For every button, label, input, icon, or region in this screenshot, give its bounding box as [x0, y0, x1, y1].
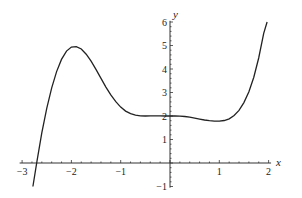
x-axis-label: x	[275, 156, 281, 168]
axis-ticks	[22, 22, 269, 187]
axes	[20, 21, 271, 188]
x-tick-label: −2	[66, 166, 77, 177]
y-tick-label: 1	[162, 134, 167, 145]
y-tick-label: 3	[162, 87, 167, 98]
x-tick-label: 2	[266, 166, 271, 177]
x-tick-label: 1	[217, 166, 222, 177]
x-tick-label: −3	[17, 166, 28, 177]
tick-labels: −3−2−112−1123456	[17, 17, 271, 193]
y-axis-label: y	[172, 8, 178, 20]
y-tick-label: 4	[162, 64, 167, 75]
y-tick-label: 5	[162, 40, 167, 51]
function-plot: −3−2−112−1123456 x y	[0, 0, 302, 198]
x-tick-label: −1	[115, 166, 126, 177]
y-tick-label: 6	[162, 17, 167, 28]
y-tick-label: −1	[156, 181, 167, 192]
plot-canvas: −3−2−112−1123456 x y	[0, 0, 302, 198]
